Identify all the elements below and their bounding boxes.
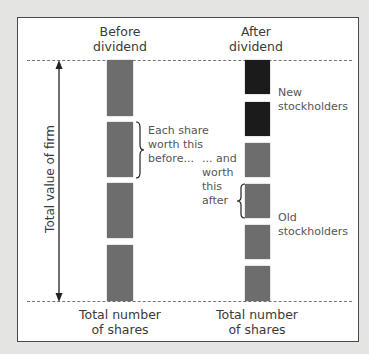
after-total-shares-label: Total number of shares bbox=[212, 307, 302, 337]
label-line: of shares bbox=[75, 322, 165, 337]
before-total-shares-label: Total number of shares bbox=[75, 307, 165, 337]
note-line: this bbox=[202, 180, 237, 194]
note-line: Each share bbox=[148, 124, 209, 138]
before-title-line1: Before bbox=[75, 24, 165, 39]
before-share-1 bbox=[107, 60, 133, 116]
before-dividend-title: Before dividend bbox=[75, 24, 165, 54]
before-share-3 bbox=[107, 183, 133, 238]
before-share-4 bbox=[107, 245, 133, 301]
after-title-line2: dividend bbox=[211, 39, 301, 54]
before-brace-note: Each share worth this before... bbox=[148, 124, 209, 166]
after-brace-note: ... and worth this after bbox=[202, 152, 237, 208]
before-share-2 bbox=[107, 122, 133, 177]
label-line: Total number bbox=[212, 307, 302, 322]
after-new-share-2 bbox=[245, 102, 270, 136]
after-new-share-1 bbox=[245, 60, 270, 94]
note-line: worth bbox=[202, 166, 237, 180]
label-line: of shares bbox=[212, 322, 302, 337]
label-line: Total number bbox=[75, 307, 165, 322]
total-value-axis-label: Total value of firm bbox=[43, 124, 57, 234]
note-line: stockholders bbox=[278, 225, 348, 239]
before-title-line2: dividend bbox=[75, 39, 165, 54]
note-line: after bbox=[202, 194, 237, 208]
note-line: stockholders bbox=[278, 100, 348, 114]
after-old-share-1 bbox=[245, 143, 270, 177]
note-line: New bbox=[278, 86, 348, 100]
note-line: Old bbox=[278, 211, 348, 225]
new-stockholders-label: New stockholders bbox=[278, 86, 348, 114]
top-dashed-line bbox=[27, 60, 352, 61]
note-line: worth this bbox=[148, 138, 209, 152]
note-line: before... bbox=[148, 152, 209, 166]
before-brace-icon bbox=[134, 121, 146, 179]
old-stockholders-label: Old stockholders bbox=[278, 211, 348, 239]
note-line: ... and bbox=[202, 152, 237, 166]
after-title-line1: After bbox=[211, 24, 301, 39]
after-dividend-title: After dividend bbox=[211, 24, 301, 54]
bottom-dashed-line bbox=[27, 301, 352, 302]
after-old-share-4 bbox=[245, 266, 270, 301]
after-old-share-2 bbox=[245, 184, 270, 218]
diagram-frame bbox=[17, 17, 359, 342]
after-old-share-3 bbox=[245, 225, 270, 259]
